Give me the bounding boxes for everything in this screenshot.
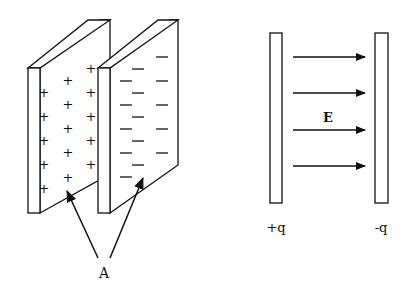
svg-text:+: +: [39, 157, 50, 172]
svg-text:+: +: [63, 170, 74, 185]
label-a: A: [98, 265, 110, 281]
capacitor-diagram: + +++ +++ +++ +++ ++ A E +q: [0, 0, 412, 294]
positive-plate: [270, 33, 282, 203]
field-label-e: E: [323, 110, 333, 125]
charge-label-negative: -q: [375, 220, 388, 235]
svg-text:+: +: [63, 97, 74, 112]
svg-text:+: +: [39, 109, 50, 124]
svg-text:+: +: [86, 85, 97, 100]
svg-text:+: +: [63, 73, 74, 88]
svg-text:+: +: [39, 85, 50, 100]
svg-text:+: +: [39, 181, 50, 196]
negative-plate: [375, 33, 388, 203]
svg-text:+: +: [86, 133, 97, 148]
svg-text:+: +: [86, 109, 97, 124]
charge-label-positive: +q: [266, 220, 285, 235]
svg-text:+: +: [63, 145, 74, 160]
svg-text:+: +: [86, 157, 97, 172]
svg-text:+: +: [63, 121, 74, 136]
svg-text:+: +: [86, 61, 97, 76]
svg-text:+: +: [39, 133, 50, 148]
